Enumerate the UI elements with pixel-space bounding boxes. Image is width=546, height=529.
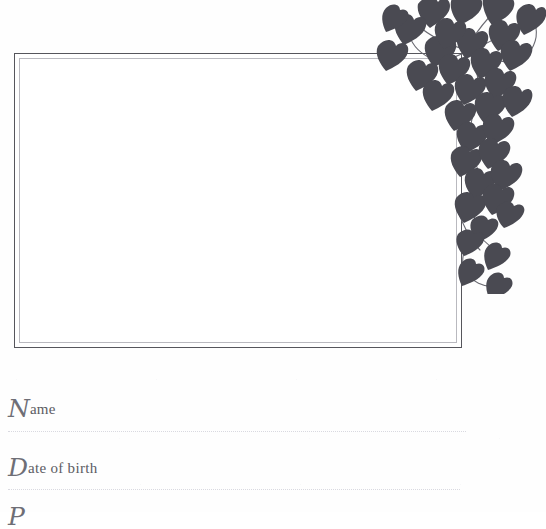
field-label-name: Name bbox=[8, 396, 56, 421]
photo-placeholder-frame[interactable] bbox=[14, 53, 462, 348]
field-label-name-text: Name bbox=[8, 401, 56, 417]
photo-drop-area[interactable] bbox=[21, 60, 455, 341]
swash-capital-n: N bbox=[8, 394, 30, 423]
field-label-date-of-birth: Date of birth bbox=[8, 455, 97, 480]
field-label-place-of-birth: P bbox=[8, 504, 25, 529]
field-label-dob-rest: ate of birth bbox=[28, 460, 97, 476]
swash-capital-d: D bbox=[8, 453, 28, 482]
input-rule-name[interactable] bbox=[8, 431, 466, 433]
field-label-name-rest: ame bbox=[30, 401, 56, 417]
swash-capital-p: P bbox=[8, 502, 25, 529]
field-label-place-text: P bbox=[8, 509, 25, 525]
photo-frame-inner-rule bbox=[19, 58, 457, 343]
input-rule-date-of-birth[interactable] bbox=[8, 489, 460, 491]
field-label-dob-text: Date of birth bbox=[8, 460, 97, 476]
